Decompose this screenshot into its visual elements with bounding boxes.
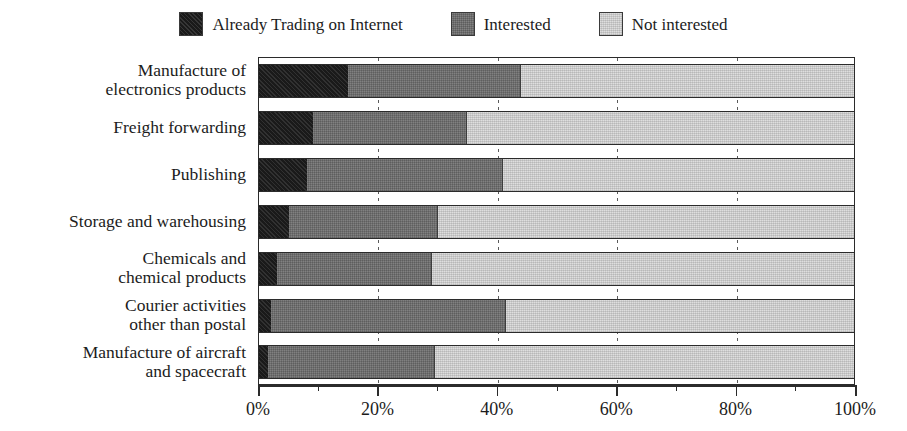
bar-segment-0 [259, 300, 271, 332]
bar-segment-1 [348, 65, 521, 97]
bar-row [259, 152, 854, 199]
x-minor-tick-70 [676, 385, 677, 391]
bar-track [259, 299, 854, 333]
bar-segment-1 [277, 253, 432, 285]
bar-segment-1 [271, 300, 506, 332]
bar-row [259, 199, 854, 246]
x-axis [258, 385, 855, 397]
bar-segment-1 [313, 112, 468, 144]
bar-segment-2 [521, 65, 854, 97]
y-axis-label-4: Chemicals and chemical products [118, 249, 246, 287]
x-tick-label-0: 0% [198, 398, 318, 420]
bar-segment-2 [435, 346, 854, 378]
bar-row [259, 245, 854, 292]
x-tick-80 [736, 385, 738, 396]
legend-item-not-interested: Not interested [599, 12, 728, 36]
bar-track [259, 345, 854, 379]
bar-segment-0 [259, 159, 307, 191]
x-minor-tick-90 [795, 385, 796, 391]
bar-segment-0 [259, 206, 289, 238]
x-tick-0 [258, 385, 260, 396]
bar-segment-0 [259, 112, 313, 144]
x-axis-tick-labels: 0%20%40%60%80%100% [198, 398, 907, 424]
bar-segment-1 [268, 346, 435, 378]
x-minor-tick-50 [557, 385, 558, 391]
bar-track [259, 158, 854, 192]
legend-item-interested: Interested [451, 12, 551, 36]
legend-label-already-trading: Already Trading on Internet [212, 16, 402, 33]
y-axis-label-1: Freight forwarding [113, 118, 246, 137]
x-tick-40 [497, 385, 499, 396]
x-tick-label-100: 100% [795, 398, 907, 420]
x-tick-100 [855, 385, 857, 396]
legend-swatch-already-trading [179, 12, 203, 36]
legend-label-interested: Interested [484, 16, 551, 33]
x-tick-label-60: 60% [556, 398, 676, 420]
bar-rows [259, 58, 854, 384]
bar-track [259, 252, 854, 286]
bar-segment-0 [259, 346, 268, 378]
y-axis-category-labels: Manufacture of electronics productsFreig… [0, 57, 252, 385]
bar-segment-0 [259, 65, 348, 97]
bar-track [259, 205, 854, 239]
bar-segment-2 [503, 159, 854, 191]
bar-segment-2 [467, 112, 854, 144]
bar-segment-2 [432, 253, 854, 285]
y-axis-label-2: Publishing [171, 165, 246, 184]
bar-row [259, 339, 854, 386]
bar-segment-1 [307, 159, 503, 191]
legend-label-not-interested: Not interested [632, 16, 728, 33]
bar-segment-1 [289, 206, 438, 238]
bar-track [259, 111, 854, 145]
bar-segment-2 [506, 300, 854, 332]
y-axis-label-0: Manufacture of electronics products [106, 61, 246, 99]
y-axis-label-5: Courier activities other than postal [125, 296, 246, 334]
stacked-bar-chart: Already Trading on Internet Interested N… [0, 0, 907, 431]
x-tick-20 [377, 385, 379, 396]
bar-track [259, 64, 854, 98]
plot-area [258, 57, 855, 385]
x-minor-tick-10 [318, 385, 319, 391]
bar-row [259, 292, 854, 339]
x-minor-tick-30 [437, 385, 438, 391]
x-tick-label-80: 80% [676, 398, 796, 420]
y-axis-label-3: Storage and warehousing [69, 212, 246, 231]
chart-legend: Already Trading on Internet Interested N… [0, 8, 907, 40]
legend-item-already-trading: Already Trading on Internet [179, 12, 402, 36]
bar-row [259, 105, 854, 152]
legend-swatch-not-interested [599, 12, 623, 36]
x-tick-label-40: 40% [437, 398, 557, 420]
legend-swatch-interested [451, 12, 475, 36]
bar-segment-0 [259, 253, 277, 285]
bar-segment-2 [438, 206, 855, 238]
y-axis-label-6: Manufacture of aircraft and spacecraft [83, 343, 246, 381]
bar-row [259, 58, 854, 105]
x-tick-60 [616, 385, 618, 396]
x-tick-label-20: 20% [317, 398, 437, 420]
